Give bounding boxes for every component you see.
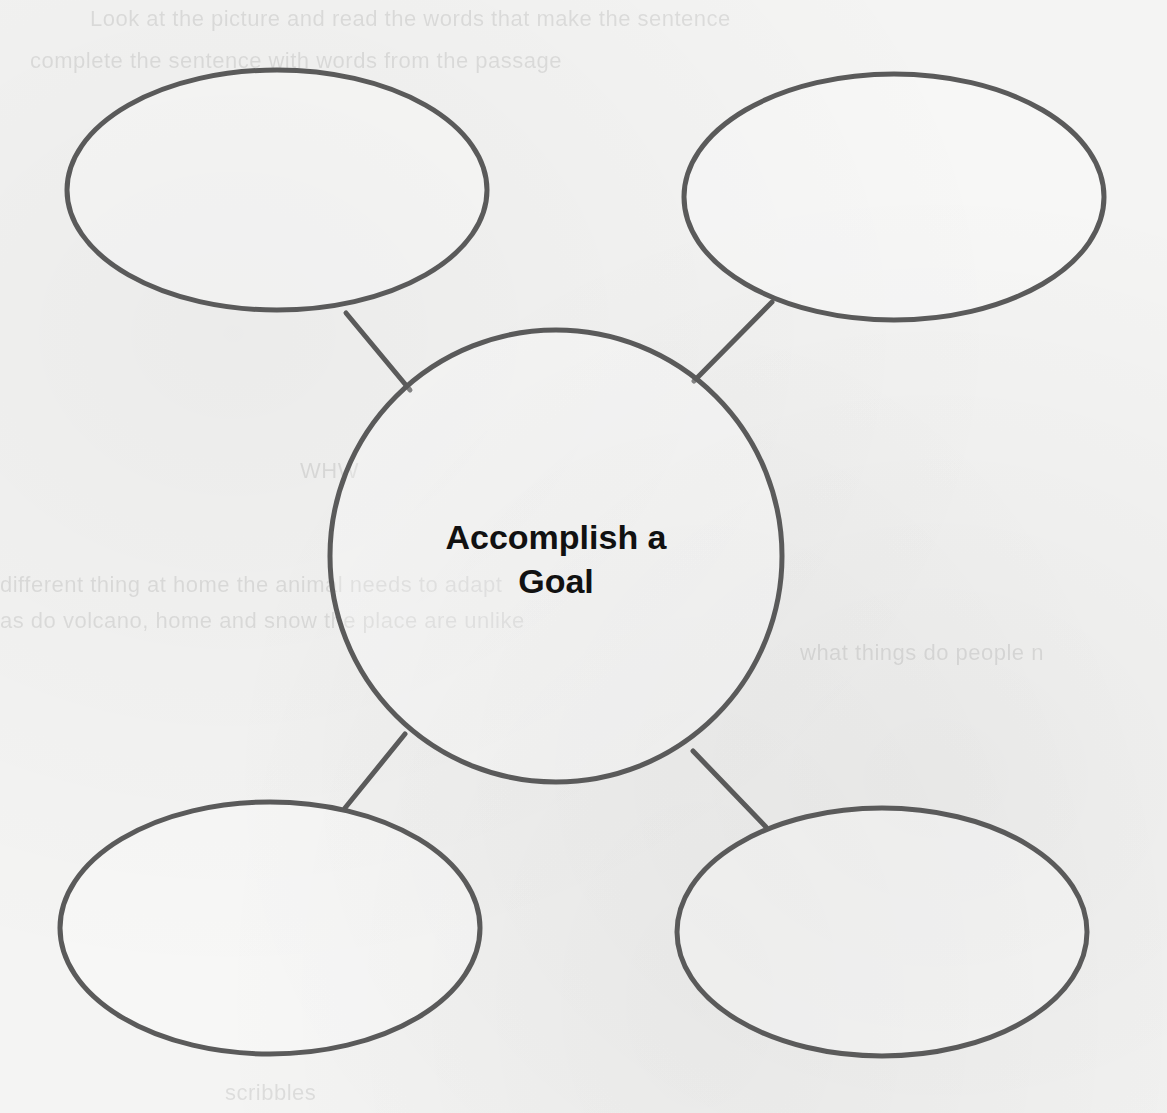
connector-top-left (346, 313, 410, 390)
center-label-line1: Accomplish a (380, 515, 732, 559)
outer-node-top-left (67, 70, 487, 310)
outer-node-top-right (684, 74, 1104, 320)
outer-node-bottom-right (677, 808, 1087, 1056)
connector-bottom-left (345, 734, 405, 808)
connector-top-right (694, 302, 772, 381)
outer-node-bottom-left (60, 802, 480, 1054)
connector-bottom-right (693, 751, 766, 827)
center-label-line2: Goal (380, 559, 732, 603)
center-node-label: Accomplish a Goal (380, 515, 732, 603)
